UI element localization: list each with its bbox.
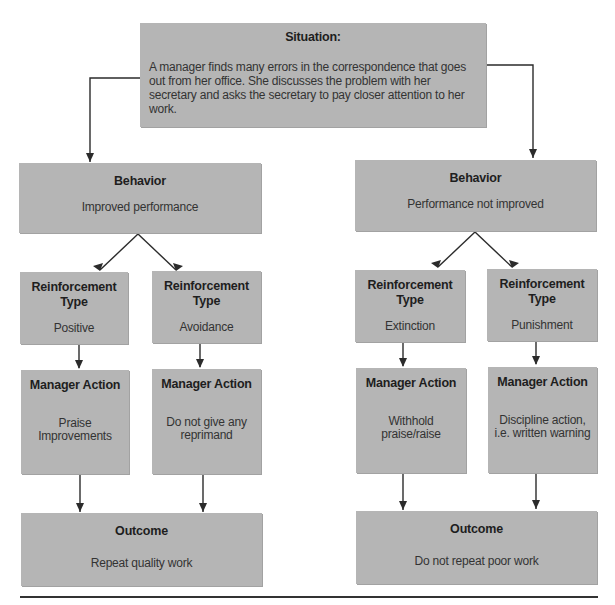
behavior-box-left: Behavior Improved performance xyxy=(19,163,261,233)
reinforcement-title: Reinforcement Type xyxy=(355,278,465,308)
situation-title: Situation: xyxy=(140,30,486,45)
outcome-text: Do not repeat poor work xyxy=(356,554,597,569)
reinforcement-box-punishment: Reinforcement Type Punishment xyxy=(487,269,597,341)
manager-action-text: Do not give any reprimand xyxy=(156,416,257,442)
situation-text: A manager finds many errors in the corre… xyxy=(149,60,478,116)
reinforcement-type: Avoidance xyxy=(152,320,261,335)
situation-box: Situation: A manager finds many errors i… xyxy=(140,23,486,127)
manager-action-title: Manager Action xyxy=(488,375,597,390)
behavior-box-right: Behavior Performance not improved xyxy=(355,160,596,231)
reinforcement-title: Reinforcement Type xyxy=(20,280,128,310)
manager-action-box-discipline: Manager Action Discipline action, i.e. w… xyxy=(488,367,597,473)
bottom-rule xyxy=(20,596,598,598)
outcome-title: Outcome xyxy=(356,522,597,537)
manager-action-box-no-reprimand: Manager Action Do not give any reprimand xyxy=(152,369,261,474)
outcome-text: Repeat quality work xyxy=(21,556,262,571)
manager-action-title: Manager Action xyxy=(152,377,261,392)
behavior-text: Improved performance xyxy=(19,200,261,215)
behavior-text: Performance not improved xyxy=(355,197,596,212)
reinforcement-box-positive: Reinforcement Type Positive xyxy=(20,272,128,344)
manager-action-title: Manager Action xyxy=(356,376,466,391)
manager-action-box-praise: Manager Action Praise Improvements xyxy=(21,370,129,474)
reinforcement-type: Positive xyxy=(20,321,128,336)
manager-action-box-withhold: Manager Action Withhold praise/raise xyxy=(356,368,466,473)
reinforcement-box-extinction: Reinforcement Type Extinction xyxy=(355,270,465,342)
reinforcement-title: Reinforcement Type xyxy=(152,279,261,309)
manager-action-text: Praise Improvements xyxy=(25,417,125,443)
outcome-box-right: Outcome Do not repeat poor work xyxy=(356,511,597,584)
behavior-title: Behavior xyxy=(19,174,261,189)
reinforcement-title: Reinforcement Type xyxy=(487,277,597,307)
outcome-box-left: Outcome Repeat quality work xyxy=(21,513,262,586)
reinforcement-type: Punishment xyxy=(487,318,597,333)
manager-action-title: Manager Action xyxy=(21,378,129,393)
reinforcement-box-avoidance: Reinforcement Type Avoidance xyxy=(152,271,261,343)
manager-action-text: Withhold praise/raise xyxy=(360,415,462,441)
reinforcement-type: Extinction xyxy=(355,319,465,334)
manager-action-text: Discipline action, i.e. written warning xyxy=(492,414,593,440)
behavior-title: Behavior xyxy=(355,171,596,186)
outcome-title: Outcome xyxy=(21,524,262,539)
